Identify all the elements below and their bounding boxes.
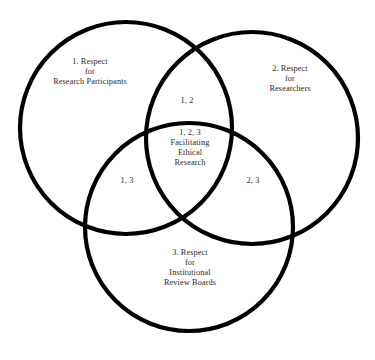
region-label-two-three: 2, 3 [218,176,288,186]
set-label-line: Review Boards [134,278,246,288]
region-label-one-three: 1, 3 [92,176,162,186]
set-label-line: Researchers [234,84,346,94]
region-label-center-intersection: 1, 2, 3 Facilitating Ethical Research [144,128,236,168]
set-label-researchers: 2. Respect for Researchers [234,64,346,94]
region-label-one-two: 1, 2 [152,96,222,106]
set-label-line: 1. Respect [24,57,156,67]
region-label-text: 2, 3 [218,176,288,186]
region-label-text: 1, 3 [92,176,162,186]
center-label-line: Research [144,158,236,168]
set-label-research-participants: 1. Respect for Research Participants [24,57,156,87]
region-label-text: 1, 2 [152,96,222,106]
center-label-line: Facilitating [144,138,236,148]
venn-diagram-figure: 1. Respect for Research Participants 2. … [0,0,375,360]
venn-circles-canvas [0,0,375,360]
set-label-line: for [234,74,346,84]
set-label-line: for [24,67,156,77]
set-label-institutional-review-boards: 3. Respect for Institutional Review Boar… [134,248,246,288]
set-label-line: 2. Respect [234,64,346,74]
center-label-line: Ethical [144,148,236,158]
set-label-line: Research Participants [24,77,156,87]
set-label-line: 3. Respect [134,248,246,258]
set-label-line: Institutional [134,268,246,278]
center-label-line: 1, 2, 3 [144,128,236,138]
set-label-line: for [134,258,246,268]
